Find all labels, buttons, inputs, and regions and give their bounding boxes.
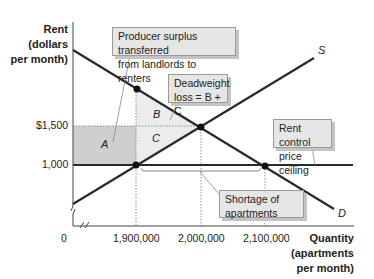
deadweight-loss-callout: Deadweight loss = B + C: [168, 74, 228, 103]
shortage-callout-line1: Shortage of: [225, 192, 298, 206]
producer-callout-line1: Producer surplus transferred: [118, 29, 230, 57]
supply-label: S: [318, 44, 325, 56]
y-axis-title-line1: Rent: [4, 22, 68, 37]
ceiling-callout-line1: Rent control: [279, 121, 326, 149]
deadweight-callout-line2: loss = B + C: [174, 90, 222, 118]
x-axis-title: Quantity (apartments per month): [290, 231, 354, 276]
x-tick-0: 0: [61, 232, 67, 244]
x-axis-break: [80, 222, 89, 228]
y-tick-1500: $1,500: [36, 119, 68, 131]
x-tick-2000000: 2,000,000: [178, 232, 225, 244]
producer-surplus-callout: Producer surplus transferred from landlo…: [112, 27, 236, 56]
y-axis-title-line3: per month): [4, 52, 68, 67]
point-equilibrium: [198, 124, 205, 131]
x-axis-title-line3: per month): [290, 261, 354, 276]
deadweight-callout-line1: Deadweight: [174, 76, 222, 90]
y-axis-title: Rent (dollars per month): [4, 22, 68, 67]
shortage-callout: Shortage of apartments: [219, 190, 304, 218]
shortage-leader: [201, 173, 220, 195]
region-b-label: B: [153, 108, 160, 120]
shortage-callout-line2: apartments: [225, 206, 298, 220]
point-demand-1900000: [134, 86, 141, 93]
region-a-label: A: [101, 138, 108, 150]
demand-label: D: [338, 207, 346, 219]
y-axis-title-line2: (dollars: [4, 37, 68, 52]
ceiling-callout-line2: price ceiling: [279, 149, 326, 177]
x-tick-1900000: 1,900,000: [113, 232, 160, 244]
x-axis-title-line1: Quantity: [290, 231, 354, 246]
point-supply-ceiling: [133, 162, 140, 169]
x-tick-2100000: 2,100,000: [243, 232, 290, 244]
region-c-label: C: [152, 132, 160, 144]
y-axis-break: [71, 206, 75, 214]
rent-control-callout: Rent control price ceiling: [273, 119, 332, 148]
x-axis-title-line2: (apartments: [290, 246, 354, 261]
point-demand-ceiling: [262, 163, 269, 170]
y-tick-1000: 1,000: [42, 158, 68, 170]
